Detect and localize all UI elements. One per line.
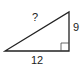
hypotenuse-label: ? <box>32 11 38 23</box>
right-triangle-diagram: ? 9 12 <box>0 0 82 68</box>
right-angle-marker <box>61 43 69 51</box>
base-label: 12 <box>31 54 43 66</box>
vertical-leg-label: 9 <box>73 21 79 33</box>
